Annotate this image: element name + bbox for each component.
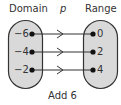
domain-value: −2 bbox=[14, 64, 29, 76]
domain-value: −4 bbox=[14, 46, 29, 58]
domain-point bbox=[29, 49, 34, 54]
rule-label: Add 6 bbox=[48, 90, 77, 102]
domain-label: Domain bbox=[9, 3, 48, 15]
range-label: Range bbox=[85, 3, 117, 15]
domain-value: −6 bbox=[14, 28, 29, 40]
range-value: 4 bbox=[97, 64, 103, 76]
range-value: 0 bbox=[97, 28, 103, 40]
range-value: 2 bbox=[97, 46, 103, 58]
range-point bbox=[90, 49, 95, 54]
domain-point bbox=[29, 67, 34, 72]
domain-point bbox=[29, 31, 34, 36]
range-point bbox=[90, 67, 95, 72]
function-label: p bbox=[60, 3, 66, 15]
range-point bbox=[90, 31, 95, 36]
